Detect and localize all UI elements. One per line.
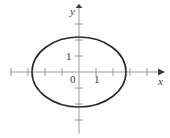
y-axis-arrow-icon	[76, 4, 83, 8]
y-axis-label: y	[70, 6, 75, 17]
x-axis-tick-label-one: 1	[94, 74, 100, 85]
origin-label: 0	[70, 74, 76, 85]
x-axis-label: x	[158, 76, 163, 87]
ellipse-graph-figure: y x 0 1 1	[0, 0, 170, 138]
plot-canvas	[0, 0, 170, 138]
y-axis-tick-label-one: 1	[66, 51, 72, 62]
